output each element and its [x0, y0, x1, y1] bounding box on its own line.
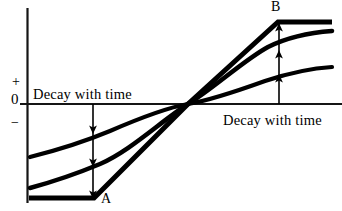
curve-diagram	[0, 0, 342, 211]
axis-label-zero: 0	[11, 92, 19, 107]
axis-label-negative: −	[11, 116, 19, 130]
left-decay-caption: Decay with time	[33, 87, 132, 102]
point-label-a: A	[101, 192, 111, 206]
right-decay-caption: Decay with time	[223, 113, 322, 128]
figure-canvas: + 0 − Decay with time Decay with time A …	[0, 0, 342, 211]
point-label-b: B	[271, 0, 280, 14]
axis-label-positive: +	[12, 75, 20, 89]
